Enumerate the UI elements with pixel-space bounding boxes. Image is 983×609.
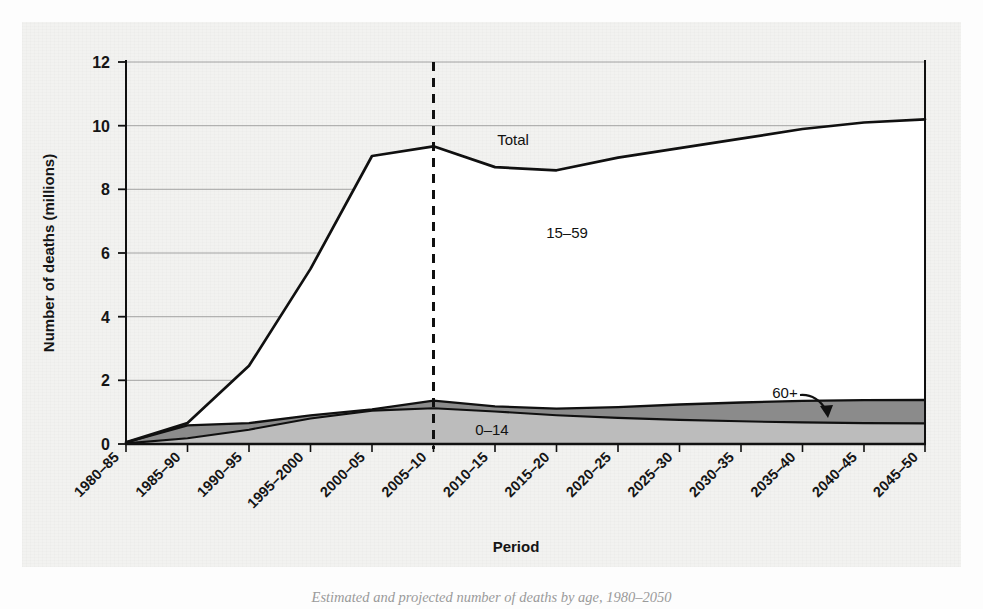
x-tick-1: 1985–90 — [132, 449, 183, 500]
x-tick-3: 1995–2000 — [244, 449, 307, 512]
scanned-page: 12 10 8 6 4 2 0 Number of deaths (millio… — [0, 0, 983, 609]
x-tick-10: 2030–35 — [686, 449, 737, 500]
y-tick-8: 8 — [101, 181, 110, 198]
x-tick-11: 2035–40 — [747, 449, 798, 500]
y-tick-6: 6 — [101, 245, 110, 262]
y-tick-12: 12 — [92, 54, 110, 71]
y-axis-title: Number of deaths (millions) — [40, 154, 57, 352]
x-tick-8: 2020–25 — [563, 449, 614, 500]
x-tick-4: 2000–05 — [317, 449, 368, 500]
y-tick-2: 2 — [101, 372, 110, 389]
x-tick-9: 2025–30 — [624, 449, 675, 500]
age-0-14-series-label: 0–14 — [475, 421, 508, 438]
deaths-by-age-chart: 12 10 8 6 4 2 0 Number of deaths (millio… — [0, 0, 983, 609]
x-axis-ticks — [126, 444, 925, 452]
x-tick-0: 1980–85 — [71, 449, 122, 500]
figure-caption-clipped: Estimated and projected number of deaths… — [0, 592, 983, 609]
x-tick-12: 2040–45 — [809, 449, 860, 500]
y-tick-4: 4 — [101, 309, 110, 326]
y-axis-ticks — [118, 62, 126, 444]
age-60-plus-series-label: 60+ — [772, 384, 798, 401]
x-tick-labels: 1980–85 1985–90 1990–95 1995–2000 2000–0… — [71, 449, 921, 512]
x-axis-title: Period — [493, 538, 540, 555]
x-tick-7: 2015–20 — [501, 449, 552, 500]
x-tick-6: 2010–15 — [440, 449, 491, 500]
x-tick-5: 2005–10 — [378, 449, 429, 500]
total-series-label: Total — [497, 131, 529, 148]
y-tick-labels: 12 10 8 6 4 2 0 — [92, 54, 110, 453]
x-tick-2: 1990–95 — [194, 449, 245, 500]
x-tick-13: 2045–50 — [870, 449, 921, 500]
figure-caption-text: Estimated and projected number of deaths… — [0, 592, 983, 606]
y-tick-10: 10 — [92, 118, 110, 135]
age-15-59-series-label: 15–59 — [546, 224, 588, 241]
